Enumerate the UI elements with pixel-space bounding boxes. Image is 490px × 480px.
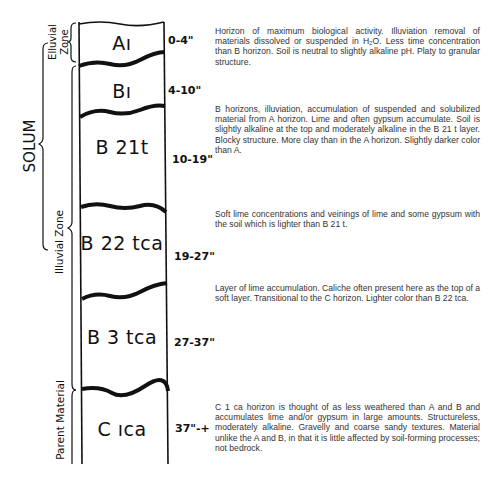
boundary-b21t-b22tca [81, 204, 166, 212]
description-b3tca: Layer of lime accumulation. Caliche ofte… [215, 283, 480, 303]
horizon-label-b1: Bı [78, 80, 166, 102]
description-c1ca: C 1 ca horizon is thought of as less wea… [215, 402, 480, 453]
illuvial-zone-label: Illuvial Zone [53, 197, 65, 287]
parent-material-label: Parent Material [54, 375, 66, 465]
horizon-label-a1: Aı [78, 32, 166, 54]
horizon-label-c1ca: C ıca [78, 418, 166, 440]
boundary-b22tca-b3tca [82, 283, 167, 299]
elluvial-label-line2: Zone [59, 17, 71, 67]
illuvial-brace [68, 66, 76, 390]
boundary-b1-b21t [80, 106, 165, 118]
depth-label-b21t: 10-19" [172, 153, 213, 166]
elluvial-label-line1: Elluvial [47, 17, 59, 67]
boundary-b3tca-c1ca [82, 380, 168, 395]
parent-material-brace [72, 390, 76, 464]
depth-label-b1: 4-10" [168, 84, 201, 97]
solum-brace [39, 43, 48, 250]
horizon-label-b22tca: B 22 tca [78, 232, 166, 254]
depth-label-c1ca: 37"-+ [175, 422, 210, 435]
description-b22tca: Soft lime concentrations and veinings of… [215, 209, 480, 229]
depth-label-a1: 0-4" [168, 34, 194, 47]
solum-label: SOLUM [22, 116, 38, 176]
boundary-a1-b1 [79, 52, 165, 66]
horizon-label-b21t: B 21t [78, 136, 166, 158]
depth-label-b3tca: 27-37" [174, 336, 215, 349]
depth-label-b22tca: 19-27" [174, 250, 215, 263]
description-b1-b21t: B horizons, illuviation, accumulation of… [215, 104, 480, 155]
column-top-edge [79, 22, 164, 26]
horizon-label-b3tca: B 3 tca [78, 326, 166, 348]
description-a1: Horizon of maximum biological activity. … [215, 26, 480, 67]
